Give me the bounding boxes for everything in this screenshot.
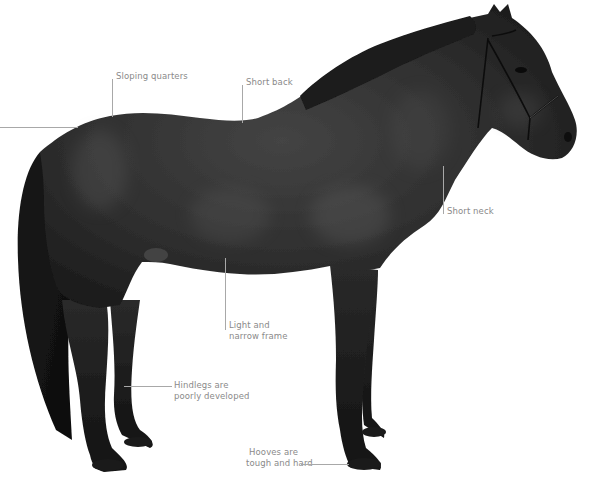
hindlegs-leader	[124, 386, 172, 387]
hooves-leader	[301, 464, 349, 465]
label-hindlegs: Hindlegs are poorly developed	[174, 380, 249, 401]
label-short-back: Short back	[246, 77, 293, 88]
sloping-quarters-leader-vertical	[112, 79, 113, 117]
front-near-leg	[330, 265, 381, 470]
label-light-narrow-frame: Light and narrow frame	[229, 320, 288, 341]
sloping-quarters-leader-horizontal	[0, 127, 78, 128]
light-narrow-frame-line1: Light and	[229, 320, 288, 331]
light-narrow-frame-leader	[225, 258, 226, 330]
label-short-neck: Short neck	[447, 206, 494, 217]
short-back-leader	[242, 85, 243, 123]
hind-far-leg	[110, 300, 153, 448]
light-narrow-frame-line2: narrow frame	[229, 331, 288, 342]
label-hooves: Hooves are tough and hard	[246, 447, 298, 468]
hooves-line2: tough and hard	[246, 458, 298, 469]
hindlegs-line1: Hindlegs are	[174, 380, 249, 391]
eye	[515, 67, 527, 73]
hindlegs-line2: poorly developed	[174, 391, 249, 402]
hooves-line1: Hooves are	[246, 447, 298, 458]
horse-illustration	[0, 0, 602, 490]
label-sloping-quarters: Sloping quarters	[116, 71, 188, 82]
horse-anatomy-diagram: Sloping quarters Short back Short neck L…	[0, 0, 602, 490]
short-neck-leader	[443, 166, 444, 214]
